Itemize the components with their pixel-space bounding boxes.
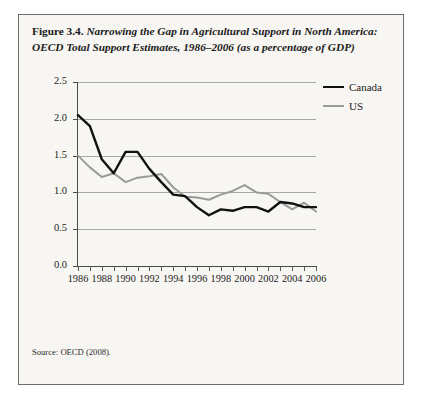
legend-swatch-canada-icon xyxy=(323,86,344,88)
line-canada xyxy=(78,115,316,215)
series-lines xyxy=(19,77,405,339)
legend-swatch-us-icon xyxy=(323,105,344,107)
figure-number: Figure 3.4. xyxy=(32,25,84,37)
legend-item-canada: Canada xyxy=(323,77,403,96)
legend-label-us: US xyxy=(349,100,363,112)
figure-caption: Figure 3.4. Narrowing the Gap in Agricul… xyxy=(32,24,387,55)
chart-plot-area: 0.00.51.01.52.02.5 198619881990199219941… xyxy=(19,77,405,339)
legend-item-us: US xyxy=(323,96,403,115)
source-note: Source: OECD (2008). xyxy=(32,347,111,357)
legend-label-canada: Canada xyxy=(349,81,382,93)
chart-legend: Canada US xyxy=(323,77,403,115)
figure-caption-text: Narrowing the Gap in Agricultural Suppor… xyxy=(32,25,377,53)
figure-panel: Figure 3.4. Narrowing the Gap in Agricul… xyxy=(18,14,404,385)
